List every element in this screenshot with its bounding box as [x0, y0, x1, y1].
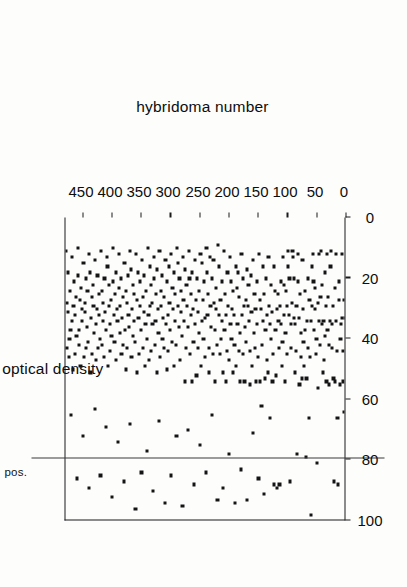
bar-value-marker — [334, 252, 337, 255]
bar-value-marker — [245, 267, 248, 270]
bar-value-marker — [229, 279, 232, 282]
bar-value-marker — [277, 346, 280, 349]
bar-value-marker — [163, 501, 166, 504]
bar-value-marker — [145, 337, 148, 340]
bar-value-marker — [245, 498, 248, 501]
bar-value-marker — [225, 349, 228, 352]
bar-value-marker — [125, 301, 128, 304]
bar-value-marker — [341, 349, 344, 352]
bar-value-marker — [313, 286, 316, 289]
bar-value-marker — [279, 279, 282, 282]
bar-value-marker — [306, 346, 309, 349]
bar-value-marker — [109, 334, 112, 337]
bar-value-marker — [239, 467, 242, 470]
bar-value-marker — [183, 267, 186, 270]
bar-value-marker — [85, 289, 88, 292]
bar-value-marker — [316, 301, 319, 304]
bar-value-marker — [180, 334, 183, 337]
bar-value-marker — [84, 346, 87, 349]
bar-value-marker — [180, 504, 183, 507]
bar-value-marker — [334, 319, 337, 322]
bar-value-marker — [311, 279, 314, 282]
bar-value-marker — [216, 243, 219, 246]
bar-value-marker — [255, 279, 258, 282]
bar-value-marker — [113, 292, 116, 295]
bar-value-marker — [96, 346, 99, 349]
value-tick-label: 60 — [348, 390, 392, 407]
bar-value-marker — [102, 355, 105, 358]
bar-value-marker — [332, 479, 335, 482]
bar-value-marker — [286, 264, 289, 267]
bar-value-marker — [307, 416, 310, 419]
category-axis-title: hybridoma number — [127, 97, 277, 115]
bar-value-marker — [87, 252, 90, 255]
bar-value-marker — [268, 322, 271, 325]
bar-value-marker — [253, 346, 256, 349]
bar-value-marker — [284, 289, 287, 292]
bar-value-marker — [324, 304, 327, 307]
bar-value-marker — [188, 352, 191, 355]
bar-value-marker — [144, 289, 147, 292]
bar-value-marker — [325, 328, 328, 331]
bar-value-marker — [234, 364, 237, 367]
bar-value-marker — [160, 337, 163, 340]
bar-value-marker — [258, 379, 261, 382]
bar-value-marker — [310, 264, 313, 267]
bar-value-marker — [291, 255, 294, 258]
bar-value-marker — [308, 355, 311, 358]
bar-value-marker — [141, 295, 144, 298]
bar-value-marker — [293, 322, 296, 325]
bar-value-marker — [170, 340, 173, 343]
bar-value-marker — [126, 273, 129, 276]
bar-value-marker — [126, 313, 129, 316]
bar-value-marker — [242, 304, 245, 307]
bar-value-marker — [80, 319, 83, 322]
bar-value-marker — [154, 292, 157, 295]
bar-value-marker — [298, 292, 301, 295]
bar-value-marker — [273, 328, 276, 331]
bar-value-marker — [71, 367, 74, 370]
bar-value-marker — [72, 279, 75, 282]
bar-value-marker — [272, 482, 275, 485]
bar-value-marker — [274, 373, 277, 376]
bar-value-marker — [159, 304, 162, 307]
bar-value-marker — [201, 337, 204, 340]
bar-value-marker — [185, 304, 188, 307]
bar-value-marker — [318, 343, 321, 346]
category-tick — [169, 212, 170, 217]
bar-value-marker — [204, 470, 207, 473]
bar-value-marker — [138, 279, 141, 282]
bar-value-marker — [235, 286, 238, 289]
bar-value-marker — [215, 498, 218, 501]
bar-value-marker — [121, 343, 124, 346]
bar-value-marker — [88, 270, 91, 273]
bar-value-marker — [145, 449, 148, 452]
bar-value-marker — [285, 352, 288, 355]
bar-value-marker — [315, 461, 318, 464]
bar-value-marker — [73, 313, 76, 316]
bar-value-marker — [301, 307, 304, 310]
bar-value-marker — [255, 322, 258, 325]
bar-value-marker — [191, 340, 194, 343]
bar-value-marker — [257, 252, 260, 255]
bar-value-marker — [101, 301, 104, 304]
bar-value-marker — [283, 379, 286, 382]
bar-value-marker — [76, 273, 79, 276]
bar-value-marker — [249, 273, 252, 276]
bar-value-marker — [153, 343, 156, 346]
bar-value-marker — [157, 419, 160, 422]
bar-value-marker — [211, 352, 214, 355]
bar-value-marker — [77, 328, 80, 331]
bar-value-marker — [140, 258, 143, 261]
bar-value-marker — [212, 301, 215, 304]
bar-value-marker — [275, 486, 278, 489]
bar-value-marker — [282, 313, 285, 316]
bar-value-marker — [263, 376, 266, 379]
bar-value-marker — [293, 370, 296, 373]
bar-value-marker — [118, 304, 121, 307]
bar-value-marker — [89, 316, 92, 319]
bar-value-marker — [156, 307, 159, 310]
bar-value-marker — [331, 376, 334, 379]
bar-value-marker — [104, 425, 107, 428]
bar-value-marker — [112, 340, 115, 343]
